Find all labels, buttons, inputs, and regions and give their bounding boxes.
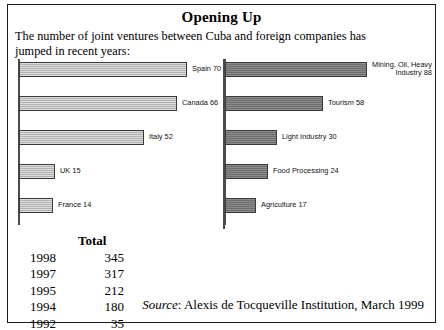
chart-frame: Opening Up The number of joint ventures … xyxy=(7,4,436,323)
bar-spain xyxy=(19,62,187,77)
bar-row: Tourism 58 xyxy=(225,95,364,111)
table-cell-year: 1997 xyxy=(30,266,78,282)
source-text: : Alexis de Tocqueville Institution, Mar… xyxy=(178,297,424,312)
bar-row: Mining, Oil, Heavy Industry 88 xyxy=(225,61,432,77)
bar-chart-area: Spain 70 Canada 66 Italy 52 UK 15 France… xyxy=(8,57,435,229)
table-cell-year: 1994 xyxy=(30,299,78,315)
chart-panel-by-country: Spain 70 Canada 66 Italy 52 UK 15 France… xyxy=(18,57,228,229)
bar-row: Light Industry 30 xyxy=(225,129,337,145)
subtitle-line-1: The number of joint ventures between Cub… xyxy=(15,29,428,44)
bar-label: Agriculture 17 xyxy=(261,201,307,209)
table-row: 1997317 xyxy=(30,266,124,282)
bar-row: Spain 70 xyxy=(19,61,221,77)
bar-tourism xyxy=(225,96,323,111)
chart-panel-by-sector: Mining, Oil, Heavy Industry 88 Tourism 5… xyxy=(224,57,435,229)
table-row: 1994180 xyxy=(30,299,124,315)
bar-label: Light Industry 30 xyxy=(282,133,337,141)
bar-row: Agriculture 17 xyxy=(225,197,307,213)
table-cell-total: 345 xyxy=(78,250,124,266)
bar-row: France 14 xyxy=(19,197,91,213)
bar-food-processing xyxy=(225,164,268,179)
table-header-total: Total xyxy=(78,233,124,249)
table-cell-total: 317 xyxy=(78,266,124,282)
bar-france xyxy=(19,198,53,213)
bar-label: UK 15 xyxy=(60,167,81,175)
bar-uk xyxy=(19,164,55,179)
source-line: Source: Alexis de Tocqueville Institutio… xyxy=(142,297,424,313)
bar-italy xyxy=(19,130,144,145)
bar-canada xyxy=(19,96,177,111)
table-row: 1998345 xyxy=(30,250,124,266)
bar-label: Spain 70 xyxy=(192,65,221,73)
bar-light-industry xyxy=(225,130,277,145)
table-cell-year: 1998 xyxy=(30,250,78,266)
table-row: 1995212 xyxy=(30,283,124,299)
bar-label: France 14 xyxy=(58,201,91,209)
table-cell-total: 212 xyxy=(78,283,124,299)
chart-subtitle: The number of joint ventures between Cub… xyxy=(15,29,428,58)
bar-row: UK 15 xyxy=(19,163,81,179)
subtitle-line-2: jumped in recent years: xyxy=(15,44,428,59)
bar-label: Food Processing 24 xyxy=(273,167,339,175)
table-cell-year: 1995 xyxy=(30,283,78,299)
totals-table: Total 1998345 1997317 1995212 1994180 19… xyxy=(30,233,124,330)
bar-row: Canada 66 xyxy=(19,95,218,111)
table-cell-total: 35 xyxy=(78,316,124,330)
table-row: 199235 xyxy=(30,316,124,330)
bar-row: Food Processing 24 xyxy=(225,163,339,179)
page-title: Opening Up xyxy=(8,9,435,26)
bar-label: Canada 66 xyxy=(182,99,218,107)
source-label: Source xyxy=(142,297,178,312)
bar-row: Italy 52 xyxy=(19,129,173,145)
bar-label: Mining, Oil, Heavy Industry 88 xyxy=(372,61,432,78)
bar-label: Italy 52 xyxy=(149,133,173,141)
table-cell-year: 1992 xyxy=(30,316,78,330)
table-cell-total: 180 xyxy=(78,299,124,315)
bar-mining-oil-heavy-industry xyxy=(225,62,367,77)
bar-agriculture xyxy=(225,198,256,213)
bar-label: Tourism 58 xyxy=(328,99,364,107)
